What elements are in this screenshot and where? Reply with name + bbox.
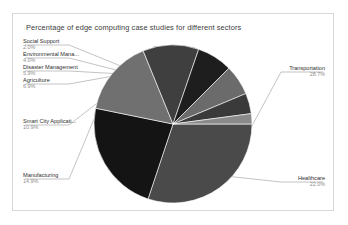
pie-chart-canvas [13,14,335,212]
chart-panel: Percentage of edge computing case studie… [12,13,334,211]
slice-label-value: 14.9% [23,179,58,185]
slice-label-value: 6.9% [23,84,50,90]
slice-label-manufacturing: Manufacturing 14.9% [23,173,58,185]
slice-label-disaster-management: Disaster Management 5.9% [23,65,78,77]
slice-label-value: 22.0% [298,182,325,188]
slice-label-environmental-management: Environmental Mana... 4.0% [23,52,79,64]
slice-label-agriculture: Agriculture 6.9% [23,78,50,90]
slice-label-value: 28.7% [289,72,325,78]
slice-label-value: 10.9% [23,125,76,131]
slice-label-social-support: Social Support 2.0% [23,39,59,51]
pie-slices [94,45,252,203]
slice-label-smart-city-applications: Smart City Applicati... 10.9% [23,119,76,131]
slice-label-transportation: Transportation 28.7% [289,66,325,78]
slice-label-healthcare: Healthcare 22.0% [298,176,325,188]
